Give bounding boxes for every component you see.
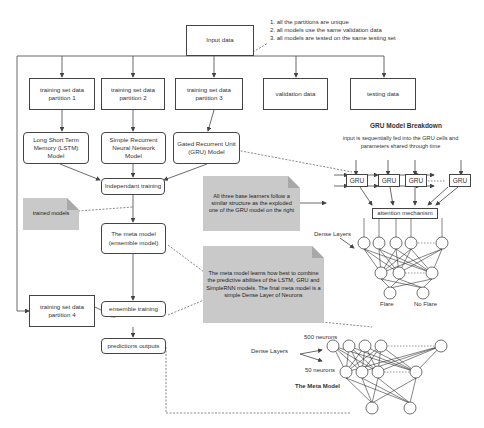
meta-model-box: The meta model (ensemble model)	[101, 223, 166, 254]
partition-2-box: training set data partition 2	[101, 78, 165, 110]
validation-data-box: validation data	[263, 78, 328, 110]
notes-list: 1. all the partitions are unique 2. all …	[270, 18, 396, 42]
gru-cell: GRU	[405, 174, 427, 187]
lstm-model-box: Long Short Term Memory (LSTM) Model	[23, 132, 89, 164]
gru-breakdown-subtitle: input is sequentially fed into the GRU c…	[333, 135, 468, 150]
gru-cell: GRU	[378, 174, 400, 187]
note-item: 3. all models are tested on the same tes…	[270, 34, 396, 42]
partition-1-box: training set data partition 1	[29, 78, 95, 110]
flare-label: Flare	[380, 300, 394, 308]
input-data-box: Input data	[186, 25, 254, 56]
note-item: 1. all the partitions are unique	[270, 18, 396, 26]
meta-model-note: The meta model learns how best to combin…	[203, 246, 324, 323]
gru-cell: GRU	[346, 174, 368, 187]
gru-cell: GRU	[449, 174, 471, 187]
simple-rnn-model-box: Simple Recurrent Neural Network Model	[101, 132, 166, 164]
layer-50-label: 50 neurons	[305, 366, 335, 374]
partition-4-box: training set data partition 4	[29, 295, 95, 327]
meta-dense-label: Dense Layers	[251, 347, 288, 355]
layer-500-label: 500 neurons	[304, 333, 337, 341]
independent-training-box: Independant training	[101, 178, 165, 195]
no-flare-label: No Flare	[414, 300, 437, 308]
meta-model-title: The Meta Model	[295, 382, 340, 390]
gru-model-box: Gated Recurrent Unit (GRU) Model	[173, 132, 240, 164]
testing-data-box: testing data	[350, 78, 416, 110]
note-item: 2. all models use the same validation da…	[270, 26, 396, 34]
ensemble-training-box: ensemble training	[101, 301, 166, 317]
partition-3-box: training set data partition 3	[175, 78, 243, 110]
predictions-outputs-box: predictions outputs	[101, 338, 166, 354]
attention-mechanism-box: attention mechanism	[372, 208, 438, 219]
base-learners-note: All three base learners follow a similar…	[203, 176, 300, 231]
gru-breakdown-title: GRU Model Breakdown	[370, 122, 442, 131]
gru-dense-label: Dense Layers	[314, 230, 351, 238]
